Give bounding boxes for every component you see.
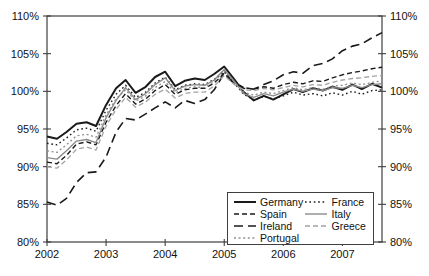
y-tick-label-right: 90% (390, 161, 412, 173)
legend-item-greece: Greece (305, 220, 369, 232)
y-tick-label-right: 85% (390, 198, 412, 210)
y-tick-label-left: 85% (17, 198, 39, 210)
y-tick-label-right: 110% (390, 10, 418, 22)
y-tick-label-right: 95% (390, 123, 412, 135)
legend-label-germany: Germany (260, 196, 303, 208)
legend-swatch-portugal-line-icon (234, 233, 256, 243)
legend-item-portugal: Portugal (234, 232, 305, 244)
y-tick-label-right: 80% (390, 236, 412, 248)
y-tick-label-left: 90% (17, 161, 39, 173)
legend-swatch-ireland-line-icon (234, 221, 256, 231)
legend-label-italy: Italy (331, 208, 350, 220)
x-tick-label: 2004 (153, 248, 177, 260)
legend-swatch-greece-line-icon (305, 221, 327, 231)
x-tick-label: 2006 (271, 248, 295, 260)
x-tick-label: 2003 (94, 248, 118, 260)
series-line-italy (47, 70, 382, 160)
y-tick-label-left: 80% (17, 236, 39, 248)
legend-swatch-italy-line-icon (305, 209, 327, 219)
series-line-ireland (47, 33, 382, 206)
legend-column-2: FranceItalyGreece (305, 196, 369, 242)
x-tick-label: 2002 (35, 248, 59, 260)
y-tick-label-left: 95% (17, 123, 39, 135)
legend-item-germany: Germany (234, 196, 305, 208)
legend-item-france: France (305, 196, 369, 208)
legend-swatch-germany-line-icon (234, 197, 256, 207)
x-tick-label: 2005 (212, 248, 236, 260)
line-chart-figure: 80%80%85%85%90%90%95%95%100%100%105%105%… (0, 0, 429, 276)
legend-label-france: France (331, 196, 364, 208)
legend-item-spain: Spain (234, 208, 305, 220)
legend-label-portugal: Portugal (260, 232, 299, 244)
x-tick-label: 2007 (330, 248, 354, 260)
legend-item-italy: Italy (305, 208, 369, 220)
series-line-spain (47, 67, 382, 164)
legend-swatch-france-line-icon (305, 197, 327, 207)
series-line-france (47, 72, 382, 145)
y-tick-label-left: 100% (11, 85, 39, 97)
y-tick-label-right: 105% (390, 48, 418, 60)
legend-label-spain: Spain (260, 208, 287, 220)
legend-label-greece: Greece (331, 220, 365, 232)
legend-label-ireland: Ireland (260, 220, 292, 232)
legend-swatch-spain-line-icon (234, 209, 256, 219)
y-tick-label-right: 100% (390, 85, 418, 97)
legend-column-1: GermanySpainIrelandPortugal (234, 196, 305, 242)
legend: GermanySpainIrelandPortugalFranceItalyGr… (227, 192, 374, 245)
y-tick-label-left: 105% (11, 48, 39, 60)
legend-item-ireland: Ireland (234, 220, 305, 232)
y-tick-label-left: 110% (12, 10, 40, 22)
